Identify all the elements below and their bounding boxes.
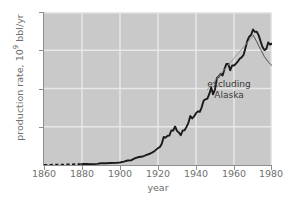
x-tick-label-1860: 1860 xyxy=(24,168,64,179)
y-tick-mark-4 xyxy=(39,12,43,13)
x-tick-label-1940: 1940 xyxy=(176,168,216,179)
y-axis-title-suffix: bbl/yr xyxy=(14,14,25,44)
y-tick-mark-2 xyxy=(39,89,43,90)
y-axis-title: production rate, 109 bbl/yr xyxy=(14,7,25,149)
x-axis-title: year xyxy=(44,182,272,193)
annotation-line-2: Alaska xyxy=(196,90,262,101)
annotation-line-1: excluding xyxy=(196,79,262,90)
x-tick-label-1880: 1880 xyxy=(62,168,102,179)
y-axis-title-prefix: production rate, 10 xyxy=(14,49,25,140)
y-tick-mark-3 xyxy=(39,50,43,51)
x-tick-label-1920: 1920 xyxy=(138,168,178,179)
chart-figure: production rate, 109 bbl/yr xyxy=(0,0,291,203)
y-axis-title-exponent: 9 xyxy=(12,45,20,49)
annotation-excluding-alaska: excluding Alaska xyxy=(196,79,262,100)
x-tick-label-1900: 1900 xyxy=(100,168,140,179)
x-tick-label-1960: 1960 xyxy=(214,168,254,179)
x-tick-label-1980: 1980 xyxy=(251,168,291,179)
y-tick-mark-1 xyxy=(39,127,43,128)
